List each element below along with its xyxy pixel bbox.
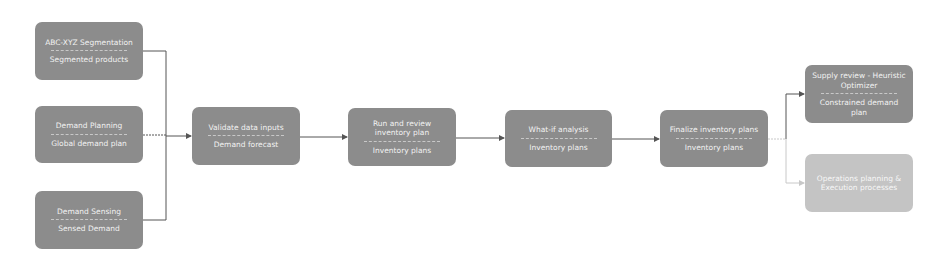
node-divider: [51, 219, 128, 220]
node-run-review-inventory-plan: Run and review inventory plan Inventory …: [348, 108, 456, 166]
node-title: What-if analysis: [529, 125, 589, 135]
node-title: Finalize inventory plans: [670, 125, 758, 135]
node-divider: [676, 138, 753, 139]
node-demand-sensing: Demand Sensing Sensed Demand: [35, 191, 143, 249]
node-divider: [51, 50, 128, 51]
node-abc-xyz-segmentation: ABC-XYZ Segmentation Segmented products: [35, 22, 143, 80]
node-title: Run and review inventory plan: [354, 119, 450, 138]
merge-connector: [143, 51, 191, 220]
node-finalize-inventory-plans: Finalize inventory plans Inventory plans: [660, 110, 768, 167]
node-divider: [364, 141, 441, 142]
node-title: Validate data inputs: [208, 123, 283, 133]
node-supply-review: Supply review - Heuristic Optimizer Cons…: [805, 65, 913, 123]
node-operations-planning: Operations planning & Execution processe…: [805, 154, 913, 212]
node-output: Demand forecast: [214, 140, 279, 150]
node-output: Global demand plan: [51, 139, 127, 149]
node-output: Inventory plans: [685, 143, 743, 153]
node-divider: [821, 93, 898, 94]
node-demand-planning: Demand Planning Global demand plan: [35, 106, 143, 163]
node-validate-data-inputs: Validate data inputs Demand forecast: [192, 107, 300, 165]
node-output: Sensed Demand: [58, 224, 120, 234]
node-divider: [51, 134, 128, 135]
node-output: Inventory plans: [373, 146, 431, 156]
node-divider: [208, 135, 285, 136]
node-output: Constrained demand plan: [811, 98, 907, 117]
node-title: ABC-XYZ Segmentation: [45, 38, 133, 48]
split-connector: [768, 94, 804, 183]
node-title: Demand Sensing: [57, 207, 121, 217]
node-title: Operations planning & Execution processe…: [811, 174, 907, 193]
node-title: Demand Planning: [56, 121, 123, 131]
node-title: Supply review - Heuristic Optimizer: [811, 71, 907, 90]
node-what-if-analysis: What-if analysis Inventory plans: [505, 110, 612, 167]
node-output: Inventory plans: [529, 143, 587, 153]
node-divider: [521, 138, 597, 139]
node-output: Segmented products: [50, 55, 128, 65]
